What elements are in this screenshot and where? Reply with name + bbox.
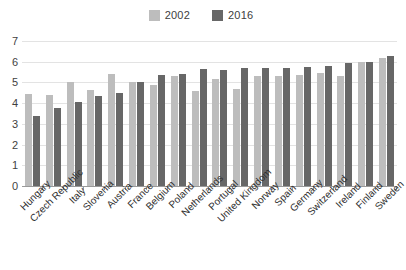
y-axis-tick-label: 1	[0, 160, 18, 171]
y-axis-tick-label: 3	[0, 119, 18, 130]
bar-2002	[129, 82, 136, 186]
bar-2016	[387, 56, 394, 187]
bar-2002	[192, 91, 199, 186]
bar-2016	[116, 93, 123, 186]
bar-group	[105, 41, 126, 186]
bar-2002	[337, 76, 344, 186]
bar-2016	[241, 68, 248, 186]
bar-2016	[283, 68, 290, 186]
legend-label-2002: 2002	[165, 10, 190, 21]
bar-2002	[212, 79, 219, 186]
y-axis-tick-label: 4	[0, 98, 18, 109]
bar-group	[251, 41, 272, 186]
legend-swatch-2002-icon	[149, 10, 160, 21]
bar-2002	[150, 85, 157, 187]
bar-group	[314, 41, 335, 186]
bar-2016	[33, 116, 40, 186]
x-axis-label-cell: Switzerland	[314, 190, 335, 270]
bar-2002	[379, 58, 386, 186]
bar-2016	[325, 66, 332, 186]
bars-layer	[22, 41, 397, 186]
bar-group	[64, 41, 85, 186]
x-axis-label-cell: United Kingdom	[230, 190, 251, 270]
bar-group	[147, 41, 168, 186]
x-axis-label-cell: Austria	[105, 190, 126, 270]
bar-group	[22, 41, 43, 186]
bar-2002	[358, 62, 365, 186]
x-axis-label-cell: Italy	[64, 190, 85, 270]
bar-2016	[179, 74, 186, 186]
bar-2002	[296, 75, 303, 186]
x-axis-label-cell: Portugal	[209, 190, 230, 270]
x-axis-label-cell: Norway	[251, 190, 272, 270]
x-axis-label-cell: Germany	[293, 190, 314, 270]
bar-2016	[95, 96, 102, 186]
bar-2016	[304, 67, 311, 186]
bar-group	[272, 41, 293, 186]
x-axis-label-cell: Poland	[168, 190, 189, 270]
bar-2016	[220, 70, 227, 186]
x-axis-label-cell: Czech Republic	[43, 190, 64, 270]
bar-group	[293, 41, 314, 186]
bar-group	[376, 41, 397, 186]
bar-2002	[254, 76, 261, 186]
legend-label-2016: 2016	[228, 10, 253, 21]
bar-2002	[46, 95, 53, 186]
bar-2002	[317, 73, 324, 186]
bar-2002	[108, 74, 115, 186]
chart-legend: 2002 2016	[0, 4, 402, 26]
y-axis-tick-label: 2	[0, 140, 18, 151]
legend-entry-2016: 2016	[212, 10, 253, 21]
bar-2016	[158, 75, 165, 186]
bar-2002	[87, 90, 94, 186]
bar-group	[43, 41, 64, 186]
x-axis-label-cell: Belgium	[147, 190, 168, 270]
bar-2002	[275, 76, 282, 186]
legend-swatch-2016-icon	[212, 10, 223, 21]
bar-group	[189, 41, 210, 186]
legend-entry-2002: 2002	[149, 10, 190, 21]
bar-group	[84, 41, 105, 186]
bar-2002	[233, 89, 240, 186]
x-axis-label-cell: Slovenia	[84, 190, 105, 270]
bar-2016	[54, 108, 61, 186]
bar-2016	[366, 62, 373, 186]
x-axis-label-cell: Sweden	[376, 190, 397, 270]
x-axis-label-cell: Netherlands	[189, 190, 210, 270]
bar-2002	[171, 76, 178, 186]
y-axis-tick-label: 7	[0, 36, 18, 47]
bar-2016	[345, 63, 352, 186]
y-axis-tick-label: 0	[0, 181, 18, 192]
bar-group	[334, 41, 355, 186]
y-axis: 76543210	[0, 41, 18, 186]
y-axis-tick-label: 5	[0, 77, 18, 88]
bar-group	[209, 41, 230, 186]
y-axis-tick-label: 6	[0, 57, 18, 68]
x-axis-labels: HungaryCzech RepublicItalySloveniaAustri…	[22, 190, 397, 270]
bar-2016	[137, 82, 144, 186]
bar-group	[230, 41, 251, 186]
bar-group	[355, 41, 376, 186]
bar-group	[126, 41, 147, 186]
bar-2002	[25, 94, 32, 186]
x-axis-label-cell: Ireland	[334, 190, 355, 270]
bar-group	[168, 41, 189, 186]
bar-2016	[200, 69, 207, 186]
